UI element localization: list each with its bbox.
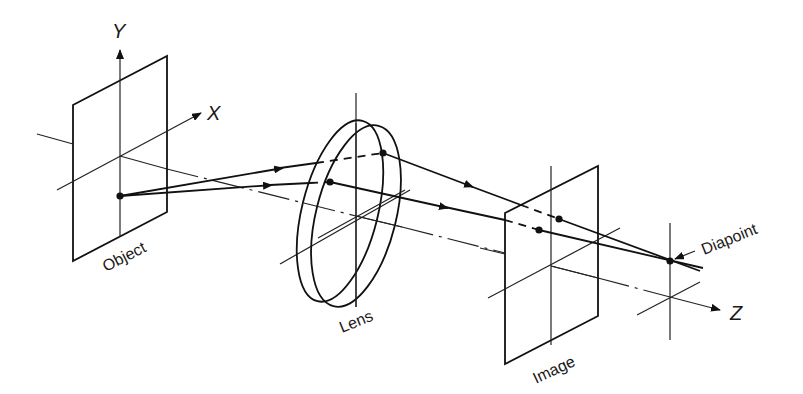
image-plane	[480, 166, 620, 364]
diapoint-plane	[637, 223, 700, 340]
rays-to-diapoint	[539, 219, 703, 271]
object-point	[116, 192, 123, 199]
object-plane	[57, 50, 201, 261]
diapoint-pointer-arrow	[675, 251, 695, 259]
lens	[280, 93, 417, 316]
y-axis-label: Y	[112, 20, 127, 42]
x-axis-arrow	[57, 113, 201, 190]
rays-outgoing	[330, 153, 521, 220]
z-axis-label: Z	[729, 302, 743, 324]
lens-label: Lens	[337, 307, 376, 336]
optical-axis	[37, 134, 720, 310]
image-label: Image	[530, 352, 578, 386]
z-axis-arrow	[670, 297, 720, 310]
diapoint	[666, 257, 673, 264]
diapoint-label: Diapoint	[699, 220, 760, 258]
x-axis-label: X	[206, 102, 221, 124]
optics-diagram: Z Y X Object Lens	[0, 0, 803, 394]
